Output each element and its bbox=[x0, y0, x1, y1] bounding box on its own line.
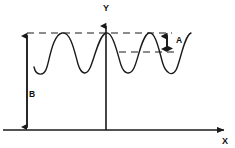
amplitude-label: A bbox=[176, 35, 182, 45]
x-axis-label: X bbox=[222, 136, 228, 146]
offset-label: B bbox=[29, 89, 35, 99]
diagram-canvas: Y X A B bbox=[0, 0, 235, 148]
wave-diagram-figure: Y X A B bbox=[0, 0, 235, 148]
y-axis-label: Y bbox=[103, 3, 109, 13]
